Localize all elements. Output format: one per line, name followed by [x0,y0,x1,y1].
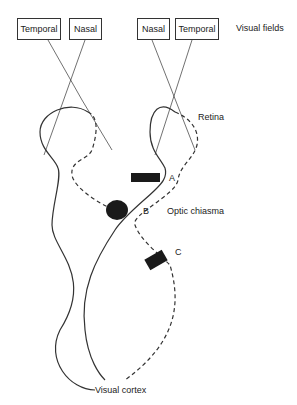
lesion-a-marker [131,173,160,182]
left-eye-solid-path [40,107,95,390]
ray-left-temporal [48,40,82,100]
right-eye-solid-path [84,107,175,380]
lesion-a-label: A [169,174,175,183]
visual-cortex-label: Visual cortex [95,386,146,395]
field-box-left-temporal: Temporal [17,18,61,40]
field-label: Temporal [178,24,215,34]
field-box-left-nasal: Nasal [69,18,102,40]
field-box-right-temporal: Temporal [175,18,219,40]
optic-chiasma-label: Optic chiasma [167,207,224,216]
retina-label: Retina [198,113,224,122]
ray-left-nasal [44,40,85,155]
field-box-right-nasal: Nasal [137,18,170,40]
lesion-c-label: C [175,248,182,257]
visual-pathway-diagram [0,0,297,405]
field-label: Nasal [142,24,165,34]
field-label: Nasal [74,24,97,34]
visual-fields-label: Visual fields [236,24,284,33]
right-eye-dashed-path [125,112,198,380]
lesion-b-marker [106,200,128,220]
ray-right-temporal [155,40,192,155]
field-label: Temporal [20,24,57,34]
left-eye-dashed-path [72,112,117,210]
lesion-b-label: B [143,207,149,216]
lesion-c-marker [144,250,167,270]
ray-right-nasal [152,40,195,150]
